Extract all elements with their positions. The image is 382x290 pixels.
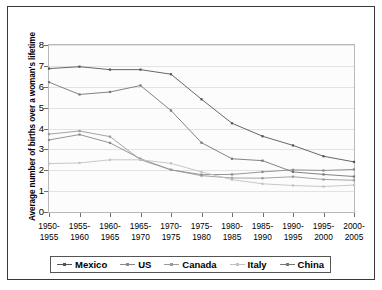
data-point-marker — [261, 171, 263, 173]
data-point-marker — [322, 185, 324, 187]
data-point-marker — [292, 169, 294, 171]
y-tick-mark — [44, 108, 48, 109]
x-tick-label: 1990-1995 — [276, 221, 310, 242]
x-tick-label-line: 1995 — [276, 232, 310, 243]
data-point-marker — [322, 155, 324, 157]
data-point-marker — [109, 69, 111, 71]
y-tick-label: 0 — [30, 207, 44, 216]
legend-line-marker-icon — [164, 261, 179, 269]
data-point-marker — [231, 179, 233, 181]
data-point-marker — [109, 136, 111, 138]
x-tick-label: 1960-1965 — [93, 221, 127, 242]
data-point-marker — [292, 144, 294, 146]
data-point-marker — [231, 173, 233, 175]
chart-legend: MexicoUSCanadaItalyChina — [50, 256, 331, 273]
data-point-marker — [353, 184, 355, 186]
x-tick-label-line: 1990 — [246, 232, 280, 243]
x-tick-label-line: 1970 — [124, 232, 158, 243]
x-tick-label-line: 1985 — [215, 232, 249, 243]
data-point-marker — [109, 142, 111, 144]
series-lines — [49, 45, 354, 212]
legend-line-marker-icon — [280, 261, 295, 269]
data-point-marker — [170, 169, 172, 171]
legend-item-china[interactable]: China — [280, 259, 324, 270]
x-tick-label-line: 1990- — [276, 221, 310, 232]
x-tick-label-line: 2000- — [337, 221, 371, 232]
legend-label: US — [138, 259, 151, 270]
series-line-china — [49, 82, 354, 176]
y-tick-mark — [44, 129, 48, 130]
data-point-marker — [78, 66, 80, 68]
data-point-marker — [261, 160, 263, 162]
data-point-marker — [78, 133, 80, 135]
x-tick-mark — [49, 213, 50, 217]
legend-label: Italy — [248, 259, 267, 270]
legend-item-italy[interactable]: Italy — [230, 259, 267, 270]
x-tick-label: 1980-1985 — [215, 221, 249, 242]
data-point-marker — [292, 176, 294, 178]
series-line-us — [49, 135, 354, 175]
x-tick-label-line: 1980- — [215, 221, 249, 232]
x-tick-label-line: 1955- — [63, 221, 97, 232]
x-tick-mark — [202, 213, 203, 217]
x-tick-mark — [324, 213, 325, 217]
data-point-marker — [200, 98, 202, 100]
x-tick-label-line: 1965 — [93, 232, 127, 243]
legend-line-marker-icon — [57, 261, 72, 269]
x-tick-label-line: 1985- — [246, 221, 280, 232]
data-point-marker — [48, 67, 50, 69]
x-tick-mark — [110, 213, 111, 217]
data-point-marker — [48, 133, 50, 135]
y-tick-label: 3 — [30, 144, 44, 153]
data-point-marker — [78, 162, 80, 164]
x-tick-mark — [141, 213, 142, 217]
y-tick-label: 6 — [30, 82, 44, 91]
data-point-marker — [200, 171, 202, 173]
y-tick-mark — [44, 45, 48, 46]
data-point-marker — [322, 173, 324, 175]
data-point-marker — [139, 69, 141, 71]
y-tick-mark — [44, 66, 48, 67]
y-tick-label: 5 — [30, 103, 44, 112]
legend-item-canada[interactable]: Canada — [164, 259, 216, 270]
data-point-marker — [353, 179, 355, 181]
legend-item-mexico[interactable]: Mexico — [57, 259, 107, 270]
x-tick-mark — [171, 213, 172, 217]
x-tick-label: 1975-1980 — [185, 221, 219, 242]
plot-area — [48, 44, 355, 213]
data-point-marker — [170, 73, 172, 75]
x-tick-mark — [263, 213, 264, 217]
data-point-marker — [353, 168, 355, 170]
x-tick-label-line: 2005 — [337, 232, 371, 243]
data-point-marker — [261, 135, 263, 137]
x-tick-mark — [232, 213, 233, 217]
x-tick-label: 1955-1960 — [63, 221, 97, 242]
data-point-marker — [170, 162, 172, 164]
x-tick-label-line: 1975 — [154, 232, 188, 243]
y-tick-label: 4 — [30, 124, 44, 133]
data-point-marker — [292, 171, 294, 173]
y-tick-mark — [44, 87, 48, 88]
x-tick-label-line: 1965- — [124, 221, 158, 232]
chart-figure: Average number of births over a woman's … — [0, 0, 382, 290]
data-point-marker — [48, 81, 50, 83]
data-point-marker — [231, 122, 233, 124]
x-tick-label-line: 1950- — [32, 221, 66, 232]
data-point-marker — [261, 177, 263, 179]
y-tick-mark — [44, 212, 48, 213]
legend-label: Mexico — [75, 259, 107, 270]
x-tick-label: 1995-2000 — [307, 221, 341, 242]
data-point-marker — [292, 184, 294, 186]
x-tick-mark — [354, 213, 355, 217]
data-point-marker — [322, 169, 324, 171]
x-tick-label-line: 1975- — [185, 221, 219, 232]
x-tick-label: 1950-1955 — [32, 221, 66, 242]
y-tick-label: 7 — [30, 61, 44, 70]
x-tick-label-line: 1980 — [185, 232, 219, 243]
legend-item-us[interactable]: US — [120, 259, 151, 270]
x-tick-label: 2000-2005 — [337, 221, 371, 242]
y-tick-mark — [44, 170, 48, 171]
data-point-marker — [200, 175, 202, 177]
y-tick-mark — [44, 191, 48, 192]
x-tick-mark — [80, 213, 81, 217]
